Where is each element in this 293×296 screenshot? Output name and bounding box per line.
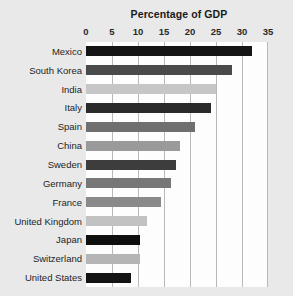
chart-title: Percentage of GDP bbox=[86, 8, 272, 20]
bar-row bbox=[86, 178, 268, 188]
x-axis-tick-labels: 05101520253035 bbox=[0, 26, 293, 40]
plot-area bbox=[86, 42, 268, 287]
x-tick-label: 25 bbox=[211, 26, 222, 37]
bar bbox=[86, 122, 195, 132]
x-tick-label: 30 bbox=[237, 26, 248, 37]
y-category-label: Spain bbox=[0, 121, 82, 132]
bar bbox=[86, 273, 131, 283]
bar-row bbox=[86, 197, 268, 207]
y-category-label: Germany bbox=[0, 178, 82, 189]
bars-layer bbox=[86, 42, 268, 287]
y-category-label: Japan bbox=[0, 234, 82, 245]
bar bbox=[86, 46, 252, 56]
bar bbox=[86, 254, 140, 264]
y-category-label: Mexico bbox=[0, 46, 82, 57]
y-category-label: Switzerland bbox=[0, 253, 82, 264]
bar-row bbox=[86, 273, 268, 283]
y-category-label: Italy bbox=[0, 102, 82, 113]
bar-chart-figure: Percentage of GDP 05101520253035 MexicoS… bbox=[0, 0, 293, 296]
bar bbox=[86, 141, 180, 151]
y-category-label: India bbox=[0, 84, 82, 95]
bar bbox=[86, 160, 176, 170]
x-tick-label: 20 bbox=[185, 26, 196, 37]
bar bbox=[86, 197, 161, 207]
bar-row bbox=[86, 216, 268, 226]
x-tick-label: 15 bbox=[159, 26, 170, 37]
bar-row bbox=[86, 235, 268, 245]
bar-row bbox=[86, 46, 268, 56]
y-category-label: Sweden bbox=[0, 159, 82, 170]
bar bbox=[86, 178, 171, 188]
y-category-label: United Kingdom bbox=[0, 216, 82, 227]
bar bbox=[86, 216, 147, 226]
y-axis-category-labels: MexicoSouth KoreaIndiaItalySpainChinaSwe… bbox=[0, 42, 82, 287]
bar bbox=[86, 103, 211, 113]
x-tick-label: 10 bbox=[133, 26, 144, 37]
x-tick-label: 5 bbox=[109, 26, 114, 37]
bar-row bbox=[86, 103, 268, 113]
bar-row bbox=[86, 141, 268, 151]
bar bbox=[86, 65, 232, 75]
bar bbox=[86, 84, 216, 94]
y-category-label: France bbox=[0, 197, 82, 208]
bar-row bbox=[86, 254, 268, 264]
bar-row bbox=[86, 160, 268, 170]
bar bbox=[86, 235, 140, 245]
bar-row bbox=[86, 84, 268, 94]
bar-row bbox=[86, 65, 268, 75]
x-tick-label: 0 bbox=[83, 26, 88, 37]
y-category-label: South Korea bbox=[0, 65, 82, 76]
y-category-label: United States bbox=[0, 272, 82, 283]
bar-row bbox=[86, 122, 268, 132]
y-category-label: China bbox=[0, 140, 82, 151]
x-tick-label: 35 bbox=[263, 26, 274, 37]
